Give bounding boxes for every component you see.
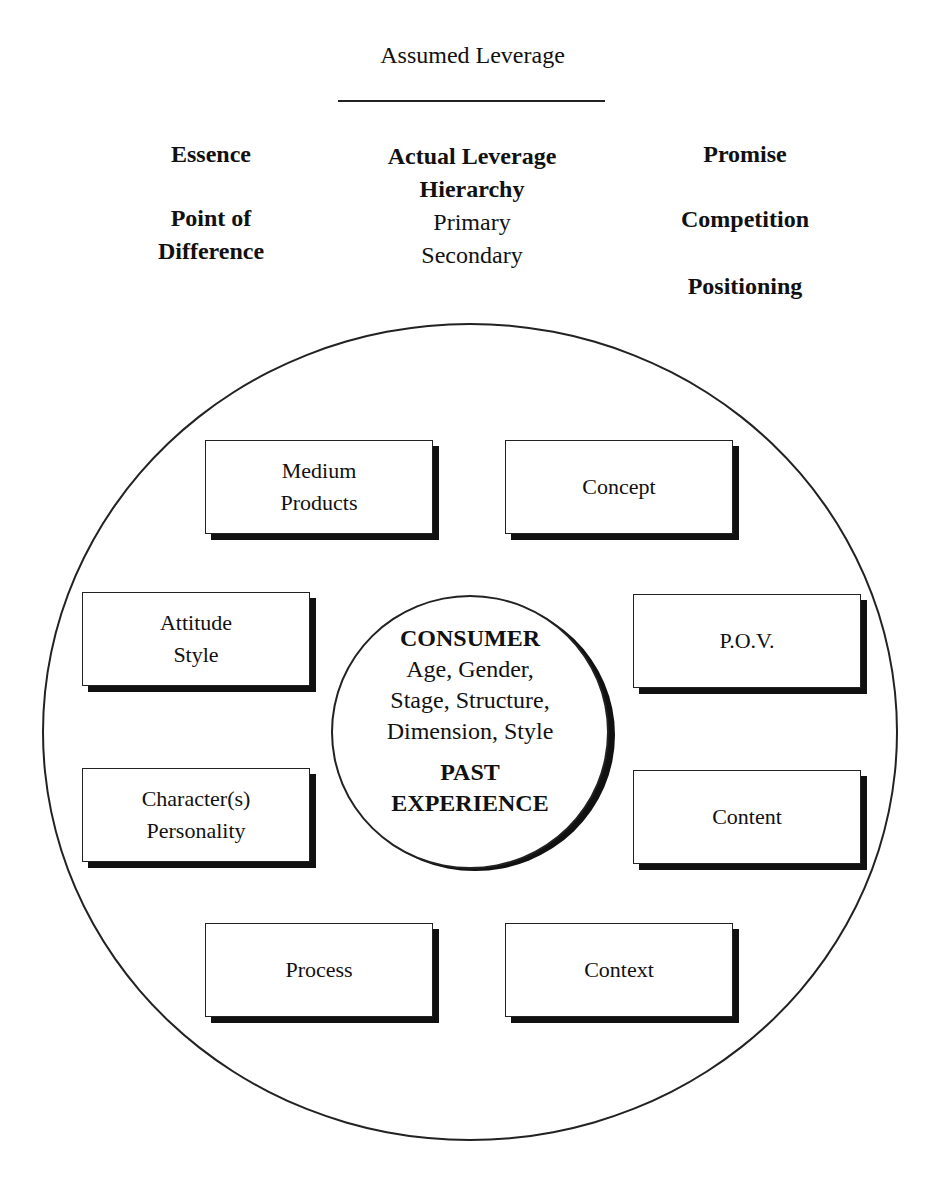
actual-leverage-block: Actual Leverage Hierarchy Primary Second…: [342, 140, 602, 272]
box-context: Context: [505, 923, 733, 1017]
box-line: Products: [281, 487, 358, 519]
box-pov: P.O.V.: [633, 594, 861, 688]
label-competition: Competition: [635, 203, 855, 236]
actual-leverage-heading: Actual Leverage: [342, 140, 602, 173]
box-medium-products: MediumProducts: [205, 440, 433, 534]
label-positioning: Positioning: [635, 270, 855, 303]
hierarchy-primary: Primary: [342, 206, 602, 239]
title-rule: [338, 100, 605, 102]
past-label: PAST: [333, 757, 607, 788]
box-line: Personality: [142, 815, 251, 847]
box-line: Medium: [281, 455, 358, 487]
box-content: Content: [633, 770, 861, 864]
hierarchy-secondary: Secondary: [342, 239, 602, 272]
box-line: Concept: [582, 471, 655, 503]
label-promise: Promise: [635, 138, 855, 171]
label-point-of: Point of: [111, 202, 311, 235]
box-attitude-style: AttitudeStyle: [82, 592, 310, 686]
box-line: Style: [160, 639, 232, 671]
consumer-attribute: Age, Gender,: [333, 654, 607, 685]
box-line: Character(s): [142, 783, 251, 815]
box-characters-personality: Character(s)Personality: [82, 768, 310, 862]
consumer-title: CONSUMER: [333, 623, 607, 654]
experience-label: EXPERIENCE: [333, 788, 607, 819]
consumer-attribute: Stage, Structure,: [333, 685, 607, 716]
box-line: P.O.V.: [719, 625, 774, 657]
box-process: Process: [205, 923, 433, 1017]
label-difference: Difference: [111, 235, 311, 268]
box-line: Context: [584, 954, 654, 986]
box-line: Process: [285, 954, 352, 986]
hierarchy-heading: Hierarchy: [342, 173, 602, 206]
box-concept: Concept: [505, 440, 733, 534]
box-line: Content: [712, 801, 782, 833]
diagram-title: Assumed Leverage: [0, 42, 935, 69]
label-essence: Essence: [111, 138, 311, 171]
consumer-attribute: Dimension, Style: [333, 716, 607, 747]
box-line: Attitude: [160, 607, 232, 639]
consumer-circle: CONSUMER Age, Gender, Stage, Structure, …: [331, 595, 609, 869]
